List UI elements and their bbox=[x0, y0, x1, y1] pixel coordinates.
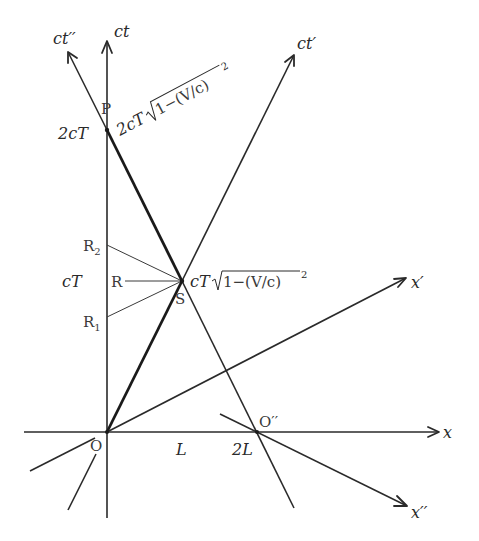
label-ct-prime: ct′ bbox=[297, 34, 316, 53]
label-O-double-prime: O′′ bbox=[259, 413, 279, 431]
label-cT: cT bbox=[62, 272, 83, 291]
formula-S-time: cT 1−(V/c) 2 bbox=[190, 269, 307, 291]
label-S: S bbox=[175, 290, 185, 308]
label-R2: R2 bbox=[83, 237, 101, 257]
label-x-prime: x′ bbox=[411, 273, 424, 292]
formula-S-exponent: 2 bbox=[301, 269, 307, 280]
formula-S-prefix: cT bbox=[190, 272, 211, 291]
x-axis bbox=[24, 427, 439, 437]
formula-P-time: 2cT 1−(V/c) 2 bbox=[111, 60, 236, 140]
point-P bbox=[105, 128, 109, 132]
spacetime-diagram: ct ct′′ ct′ x′ x x′′ P S O O′′ R2 R R1 c… bbox=[0, 0, 479, 541]
label-ct: ct bbox=[114, 22, 130, 41]
label-R1: R1 bbox=[83, 313, 101, 333]
label-x-double-prime: x′′ bbox=[411, 503, 428, 522]
formula-P-exponent: 2 bbox=[219, 60, 230, 73]
formula-P-prefix: 2cT bbox=[112, 108, 149, 140]
label-L: L bbox=[175, 440, 187, 459]
label-R: R bbox=[111, 273, 123, 291]
label-ct-double-prime: ct′′ bbox=[53, 29, 76, 48]
label-O: O bbox=[90, 437, 102, 455]
formula-S-radicand: 1−(V/c) bbox=[223, 273, 281, 291]
label-x: x bbox=[443, 423, 452, 442]
x-double-prime-axis bbox=[220, 414, 407, 506]
label-2cT: 2cT bbox=[57, 124, 89, 143]
point-O bbox=[105, 430, 109, 434]
label-2L: 2L bbox=[231, 440, 253, 459]
x-prime-axis bbox=[30, 278, 406, 471]
label-P: P bbox=[101, 100, 111, 118]
formula-P-radicand: 1−(V/c) bbox=[152, 76, 212, 119]
point-S bbox=[180, 279, 184, 283]
